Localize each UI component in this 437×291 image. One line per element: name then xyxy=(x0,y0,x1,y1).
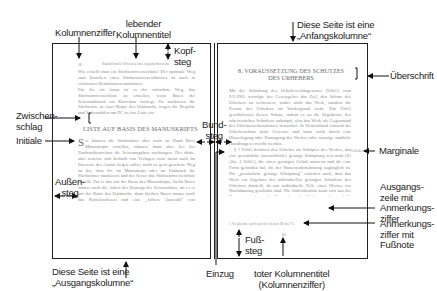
label-zwischenschlag-line1: Zwischen- xyxy=(16,111,58,122)
label-initiale: Initiale xyxy=(16,136,42,147)
label-bundsteg-line1: Bund- xyxy=(202,120,226,131)
label-toter-kolumnentitel-line2: (Kolumnenziffer) xyxy=(254,280,329,291)
label-fusssteg-line2: steg xyxy=(245,246,264,257)
label-bundsteg-line2: steg xyxy=(202,131,226,142)
label-kolumnenziffer: Kolumnenziffer xyxy=(55,28,115,39)
label-lebender-kolumnentitel: lebender Kolumnentitel xyxy=(116,19,171,40)
label-fusssteg-line1: Fuß- xyxy=(245,235,264,246)
label-zwischenschlag: Zwischen- schlag xyxy=(16,111,58,132)
label-bundsteg: Bund- steg xyxy=(202,120,226,141)
label-aussensteg-line2: steg xyxy=(55,188,85,199)
label-anmerkungsziffer-line1: Anmerkungs- xyxy=(380,219,434,230)
label-anmerkungsziffer-line3: Fußnote xyxy=(380,240,434,251)
label-marginalie: Marginale xyxy=(379,146,419,157)
label-aussensteg-line1: Außen- xyxy=(55,177,85,188)
label-toter-kolumnentitel: toter Kolumnentitel (Kolumnenziffer) xyxy=(254,269,329,290)
label-anfangskolumne-line1: Diese Seite ist eine xyxy=(297,20,374,31)
label-fusssteg: Fuß- steg xyxy=(245,235,264,256)
label-ausgangszeile-line1: Ausgangs- xyxy=(380,182,434,193)
label-aussensteg: Außen- steg xyxy=(55,177,85,198)
annotation-arrows xyxy=(0,0,437,291)
label-anfangskolumne-line2: „Anfangskolumne“ xyxy=(297,31,374,42)
label-kopfsteg-line2: steg xyxy=(174,57,196,68)
label-kopfsteg-line1: Kopf- xyxy=(174,46,196,57)
label-anmerkungsziffer: Anmerkungs- ziffer mit Fußnote xyxy=(380,219,434,251)
label-lebender-kolumnentitel-line1: lebender xyxy=(116,19,171,30)
label-anfangskolumne: Diese Seite ist eine „Anfangskolumne“ xyxy=(297,20,374,41)
label-zwischenschlag-line2: schlag xyxy=(16,122,58,133)
label-einzug: Einzug xyxy=(206,269,234,280)
label-lebender-kolumnentitel-line2: Kolumnentitel xyxy=(116,30,171,41)
label-ausgangszeile-line3: Anmerkungs- xyxy=(380,203,434,214)
label-ausgangskolumne: Diese Seite ist eine „Ausgangskolumne“ xyxy=(52,267,133,288)
label-kopfsteg: Kopf- steg xyxy=(174,46,196,67)
label-ueberschrift: Überschrift xyxy=(390,71,434,82)
label-ausgangskolumne-line1: Diese Seite ist eine xyxy=(52,267,133,278)
label-toter-kolumnentitel-line1: toter Kolumnentitel xyxy=(254,269,329,280)
label-ausgangskolumne-line2: „Ausgangskolumne“ xyxy=(52,278,133,289)
